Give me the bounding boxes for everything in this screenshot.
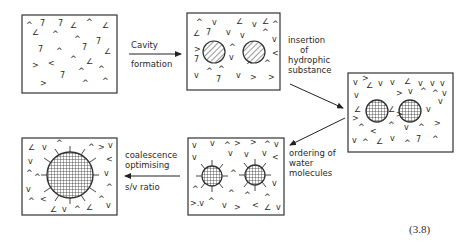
arrow-cavity-formation: Cavity formation: [129, 40, 181, 69]
label-sv-ratio: s/v ratio: [125, 182, 160, 192]
svg-text:^: ^: [229, 43, 236, 52]
svg-text:<: <: [370, 127, 377, 136]
svg-text:∠: ∠: [86, 203, 93, 212]
stage-inserted-box: v>∠vv∠vvv v>v^^v ∠>vv >∠ ^<^v^> v^∠v^7^: [348, 73, 453, 152]
svg-text:∠: ∠: [70, 21, 77, 30]
svg-text:<: <: [40, 195, 47, 204]
svg-text:v: v: [106, 201, 111, 210]
svg-text:7: 7: [38, 45, 43, 54]
svg-text:7: 7: [82, 43, 87, 52]
coalesced-sphere: [47, 152, 93, 198]
svg-text:^: ^: [192, 185, 199, 194]
svg-text:^: ^: [196, 18, 203, 27]
svg-text:>: >: [234, 203, 241, 212]
svg-text:^: ^: [98, 195, 105, 204]
label-coalescence: coalescence: [125, 150, 177, 160]
stage-cavities-box: ^v∠v∠^ ∠7vv^v ^v< >7^^ v^^v>> 7: [187, 13, 280, 90]
label-water: water: [289, 158, 314, 168]
svg-text:v: v: [438, 97, 443, 106]
svg-text:v: v: [274, 140, 279, 149]
svg-text:∠: ∠: [102, 21, 109, 30]
svg-text:∠: ∠: [104, 47, 111, 56]
svg-text:7: 7: [216, 75, 221, 84]
svg-text:7: 7: [58, 19, 63, 28]
svg-text:v: v: [42, 143, 47, 152]
svg-text:^: ^: [418, 123, 425, 132]
svg-text:v: v: [272, 35, 277, 44]
svg-text:7: 7: [60, 71, 65, 80]
svg-text:>: >: [98, 143, 105, 152]
svg-text:^: ^: [28, 197, 35, 206]
label-formation: formation: [131, 59, 172, 69]
svg-text:v: v: [430, 79, 435, 88]
svg-text:v: v: [26, 185, 31, 194]
svg-text:^: ^: [34, 173, 41, 182]
arrow-insertion: insertion of hydrophic substance: [288, 35, 343, 108]
svg-text:^: ^: [106, 183, 113, 192]
svg-text:v: v: [353, 78, 358, 87]
svg-text:∠: ∠: [86, 57, 93, 66]
svg-text:v: v: [262, 149, 267, 158]
cavity-right: [243, 41, 265, 63]
svg-text:^: ^: [432, 135, 439, 144]
svg-text:∠: ∠: [354, 105, 361, 114]
svg-text:v: v: [222, 201, 227, 210]
svg-text:^: ^: [208, 197, 215, 206]
svg-text:^: ^: [388, 121, 395, 130]
label-ordering-of: ordering of: [289, 148, 337, 158]
svg-text:v: v: [244, 150, 249, 159]
svg-text:>: >: [396, 89, 403, 98]
stage-coalesced-box: ∠v^^>v v< ^^v v^ ^<^v ∠v^∠: [22, 138, 117, 215]
svg-text:v: v: [442, 89, 447, 98]
svg-text:v: v: [210, 139, 215, 148]
svg-text:^: ^: [70, 55, 77, 64]
svg-text:v: v: [212, 18, 217, 27]
svg-text:^: ^: [230, 169, 237, 178]
svg-text:v: v: [228, 149, 233, 158]
label-optimising: optimising: [125, 160, 170, 170]
svg-text:^: ^: [362, 138, 369, 147]
svg-text:^: ^: [264, 59, 271, 68]
svg-text:∠: ∠: [376, 137, 383, 146]
svg-text:v: v: [276, 203, 281, 212]
svg-text:^: ^: [404, 139, 411, 148]
svg-text:^: ^: [56, 47, 63, 56]
svg-text:v: v: [108, 141, 113, 150]
hydrophobic-effect-diagram: ^77∠^∠ ∠^^7 7^7∠ ><^∠ 7^^ >^^ Cavity for…: [0, 0, 463, 249]
svg-text:>: >: [250, 73, 257, 82]
svg-text:∠: ∠: [193, 29, 200, 38]
svg-text:v: v: [28, 157, 33, 166]
svg-text:>: >: [396, 110, 403, 119]
stage-ordered-box: vv^>>^v vvvv< ^v ^^^^ >.v^v><∠v: [188, 138, 284, 215]
svg-text:7: 7: [416, 135, 421, 144]
svg-text:^: ^: [78, 67, 85, 76]
svg-text:∠: ∠: [262, 17, 269, 26]
svg-text:<: <: [106, 155, 113, 164]
svg-text:<: <: [48, 59, 55, 68]
svg-text:^: ^: [218, 65, 225, 74]
svg-text:v: v: [236, 71, 241, 80]
svg-text:^: ^: [246, 61, 253, 70]
svg-text:>: >: [234, 139, 241, 148]
hydrophobic-sphere-left: [366, 100, 388, 122]
svg-text:>: >: [434, 119, 441, 128]
svg-text:∠: ∠: [236, 17, 243, 26]
svg-text:v: v: [226, 28, 231, 37]
label-substance: substance: [288, 65, 331, 75]
svg-text:∠: ∠: [366, 81, 373, 90]
svg-text:v: v: [104, 169, 109, 178]
svg-text:^: ^: [358, 123, 365, 132]
svg-text:∠: ∠: [388, 105, 395, 114]
svg-text:^: ^: [264, 140, 271, 149]
svg-text:v: v: [272, 179, 277, 188]
svg-text:v: v: [229, 53, 234, 62]
water-molecules: ^77∠^∠ ∠^^7 7^7∠ ><^∠ 7^^ >^^: [26, 18, 111, 88]
svg-text:^: ^: [420, 87, 427, 96]
svg-text:∠: ∠: [264, 203, 271, 212]
svg-text:∠: ∠: [28, 143, 35, 152]
svg-text:v: v: [408, 87, 413, 96]
svg-text:v: v: [440, 79, 445, 88]
svg-text:>: >: [352, 114, 359, 123]
svg-text:>: >: [40, 79, 47, 88]
svg-text:>: >: [268, 73, 275, 82]
